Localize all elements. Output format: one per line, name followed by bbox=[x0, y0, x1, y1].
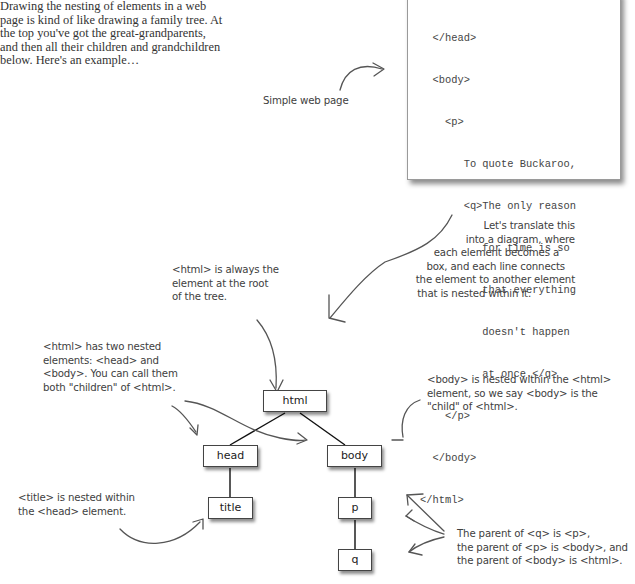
arrowhead-icon bbox=[329, 295, 345, 322]
node-title: title bbox=[208, 497, 253, 519]
arrow-to-code-icon bbox=[340, 67, 382, 90]
diagram-connectors bbox=[0, 0, 635, 584]
arrowhead-icon bbox=[406, 510, 414, 521]
arrowhead-icon bbox=[373, 63, 384, 76]
arrow-parent-body-icon bbox=[407, 495, 444, 531]
arrow-html-root-icon bbox=[257, 320, 276, 388]
arrow-to-head-icon bbox=[172, 406, 196, 432]
tree-edges bbox=[230, 413, 355, 549]
node-q: q bbox=[338, 549, 372, 571]
arrow-translate-icon bbox=[330, 215, 452, 318]
arrow-body-child-icon bbox=[402, 400, 420, 437]
node-html: html bbox=[263, 390, 327, 412]
node-body: body bbox=[327, 445, 382, 467]
node-p: p bbox=[338, 497, 372, 519]
arrow-title-nested-icon bbox=[120, 522, 200, 543]
arrowhead-icon bbox=[297, 433, 307, 444]
edge-html-head bbox=[230, 413, 285, 445]
node-head: head bbox=[203, 445, 258, 467]
hand-arrows bbox=[120, 63, 452, 555]
